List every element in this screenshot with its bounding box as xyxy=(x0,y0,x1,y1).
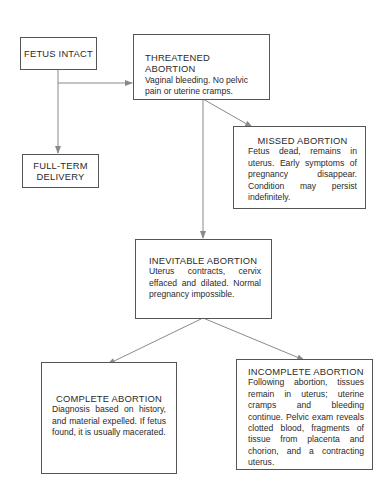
node-description: Fetus dead, remains in uterus. Early sym… xyxy=(248,146,357,203)
node-description: Following abortion, tissues remain in ut… xyxy=(248,377,364,468)
node-title: INCOMPLETE ABORTION xyxy=(248,366,364,377)
node-title: FETUS INTACT xyxy=(24,48,93,59)
edge-threatened-to-missed xyxy=(203,99,252,127)
node-description: Vaginal bleeding. No pelvic pain or uter… xyxy=(145,75,259,98)
node-title: COMPLETE ABORTION xyxy=(52,393,166,404)
node-title: MISSED ABORTION xyxy=(248,135,357,146)
node-description: Uterus contracts, cervix effaced and dil… xyxy=(149,266,261,300)
node-full-term-delivery: FULL-TERM DELIVERY xyxy=(22,154,99,188)
node-title-line-2: DELIVERY xyxy=(37,171,85,182)
node-complete-abortion: COMPLETE ABORTION Diagnosis based on his… xyxy=(41,362,177,474)
edge-inevitable-to-incomplete xyxy=(203,318,304,360)
node-missed-abortion: MISSED ABORTION Fetus dead, remains in u… xyxy=(233,126,366,209)
node-title: THREATENED ABORTION xyxy=(145,52,259,75)
node-incomplete-abortion: INCOMPLETE ABORTION Following abortion, … xyxy=(236,359,373,470)
node-fetus-intact: FETUS INTACT xyxy=(20,37,97,70)
node-description: Diagnosis based on history, and material… xyxy=(52,404,166,438)
node-title: INEVITABLE ABORTION xyxy=(149,255,261,266)
node-threatened-abortion: THREATENED ABORTION Vaginal bleeding. No… xyxy=(133,34,270,100)
node-title-line-1: FULL-TERM xyxy=(33,160,87,171)
node-inevitable-abortion: INEVITABLE ABORTION Uterus contracts, ce… xyxy=(135,239,272,319)
edge-inevitable-to-complete xyxy=(108,318,203,364)
